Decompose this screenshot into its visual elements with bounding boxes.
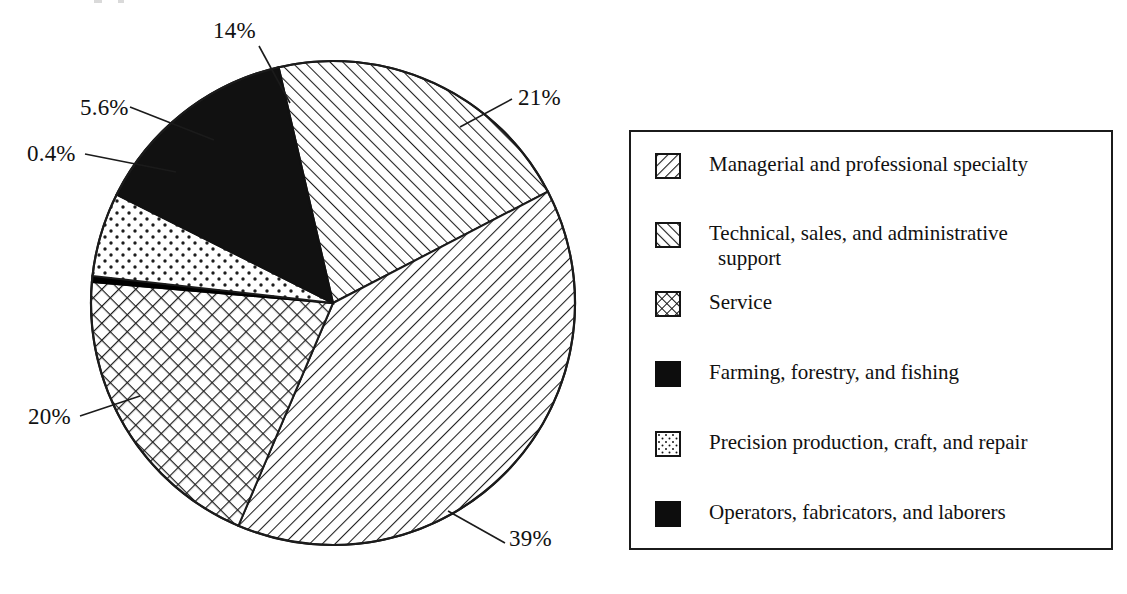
legend-item-service: Service [655, 290, 1099, 317]
pie-label-managerial: 39% [509, 527, 552, 550]
diagonal-hatch-left-swatch-icon [655, 153, 681, 179]
pie-label-farming: 0.4% [27, 142, 76, 165]
legend-item-technical: Technical, sales, and administrative sup… [655, 221, 1099, 271]
legend-box: Managerial and professional specialty Te… [629, 130, 1113, 550]
pie-chart-area: 14% 5.6% 0.4% 21% 20% 39% [0, 0, 620, 594]
solid-black-swatch-icon [655, 501, 681, 527]
legend-label-operators: Operators, fabricators, and laborers [709, 500, 1006, 525]
pie-label-service: 20% [28, 405, 71, 428]
legend-label-farming: Farming, forestry, and fishing [709, 360, 959, 385]
leader-managerial [448, 511, 505, 543]
dotted-swatch-icon [655, 431, 681, 457]
diagonal-hatch-right-swatch-icon [655, 222, 681, 248]
pie-label-technical: 21% [518, 86, 561, 109]
legend-item-precision: Precision production, craft, and repair [655, 430, 1099, 457]
legend-label-technical: Technical, sales, and administrative sup… [709, 221, 1008, 271]
legend-label-service: Service [709, 290, 772, 315]
solid-black-swatch-icon [655, 361, 681, 387]
legend-item-managerial: Managerial and professional specialty [655, 152, 1099, 179]
pie-label-precision: 5.6% [80, 96, 129, 119]
legend-label-precision: Precision production, craft, and repair [709, 430, 1027, 455]
cross-hatch-swatch-icon [655, 291, 681, 317]
pie-chart-figure: 14% 5.6% 0.4% 21% 20% 39% Managerial and… [0, 0, 1127, 594]
legend-item-operators: Operators, fabricators, and laborers [655, 500, 1099, 527]
legend-label-managerial: Managerial and professional specialty [709, 152, 1028, 177]
legend-item-farming: Farming, forestry, and fishing [655, 360, 1099, 387]
pie-label-operators: 14% [213, 19, 256, 42]
